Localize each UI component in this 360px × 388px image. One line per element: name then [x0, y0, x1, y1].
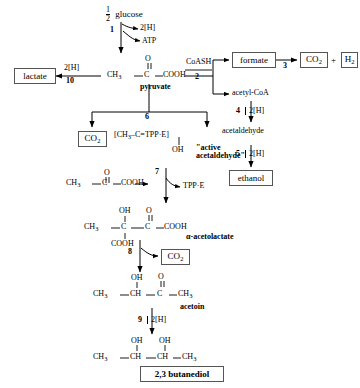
butanediol-ch3-left: CH3: [93, 353, 107, 363]
co2-right-label: CO2: [306, 55, 322, 66]
pyruvate-carbon: C: [144, 71, 149, 79]
two-h-step5: 2[H]: [245, 150, 264, 158]
step-6-number: 6: [145, 113, 149, 121]
two-h-step10: 2[H]: [64, 64, 79, 72]
butanediol-label: 2,3 butanediol: [155, 370, 210, 379]
step-10-number: 10: [66, 77, 74, 85]
coash-label: CoASH: [186, 58, 211, 66]
acetoin-ch3-right: CH3: [178, 290, 192, 300]
pyruvate-cooh: COOH: [163, 71, 186, 79]
pyruvate-name: pyruvate: [140, 83, 171, 91]
butanediol-ch-right: CH: [157, 353, 168, 361]
two-h-step1: 2[H]: [140, 24, 155, 32]
step-7-number: 7: [155, 168, 159, 176]
two-h-step9: 2[H]: [147, 316, 166, 324]
co2-acetoin-label: CO2: [168, 252, 184, 263]
acetolactate-oh: OH: [119, 207, 131, 215]
acetolactate-oxygen: O: [146, 207, 152, 215]
tpp-e-label: TPP·E: [183, 182, 204, 190]
ethanol-box: ethanol: [229, 170, 273, 186]
active-acetaldehyde-label: "active acetaldehyde": [196, 144, 245, 161]
active-complex-oh: OH: [172, 146, 184, 154]
co2-acetoin-box: CO2: [161, 249, 190, 265]
acetoin-ch3-left: CH3: [93, 290, 107, 300]
pyruvate2-oxygen: O: [104, 169, 110, 177]
acetolactate-c1: C: [121, 223, 126, 231]
butanediol-oh-left: OH: [131, 337, 143, 345]
step-1-number: 1: [110, 26, 114, 34]
lactate-label: lactate: [23, 72, 46, 81]
pyruvate-ch3: CH3: [107, 71, 121, 81]
step-8-number: 8: [128, 248, 132, 256]
acetyl-coa-label: acetyl-CoA: [232, 89, 269, 97]
co2-right-box: CO2: [300, 52, 328, 68]
active-acetaldehyde-complex: [CH3–C=TPP·E]: [114, 131, 169, 141]
acetoin-carbon: C: [157, 290, 162, 298]
co2-left-box: CO2: [78, 131, 107, 147]
glucose-text: glucose: [115, 9, 143, 19]
acetolactate-c2: C: [145, 223, 150, 231]
pyruvate2-ch3: CH3: [66, 179, 80, 189]
ethanol-label: ethanol: [238, 174, 265, 183]
plus-sign: +: [331, 56, 336, 65]
acetolactate-cooh-right: COOH: [164, 223, 187, 231]
co2-left-label: CO2: [85, 134, 101, 145]
pyruvate-oxygen: O: [145, 55, 151, 63]
butanediol-ch-left: CH: [130, 353, 141, 361]
glucose-label: 1 2 glucose: [106, 6, 143, 23]
two-h-step4: 2[H]: [245, 107, 264, 115]
formate-label: formate: [240, 56, 268, 65]
h2-box: H2: [341, 52, 358, 68]
step-9-number: 9: [138, 316, 142, 324]
lactate-box: lactate: [14, 68, 56, 84]
acetolactate-ch3: CH3: [84, 223, 98, 233]
h2-label: H2: [345, 55, 355, 66]
acetolactate-name: α-acetolactate: [186, 233, 234, 241]
acetaldehyde-label: acetaldehyde: [222, 127, 264, 135]
step-2-number: 2: [195, 73, 199, 81]
pyruvate2-carbon: C: [102, 179, 107, 187]
step-4-number: 4: [236, 107, 240, 115]
atp-label: ATP: [142, 37, 156, 45]
acetoin-ch: CH: [130, 290, 141, 298]
glucose-coefficient: 1 2: [106, 6, 110, 23]
pyruvate2-cooh: COOH: [121, 179, 144, 187]
butanediol-box: 2,3 butanediol: [140, 366, 224, 382]
acetoin-oxygen: O: [158, 273, 164, 281]
acetoin-name: acetoin: [180, 303, 204, 311]
formate-box: formate: [232, 52, 276, 68]
butanediol-ch3-right: CH3: [182, 353, 196, 363]
butanediol-oh-right: OH: [159, 337, 171, 345]
pathway-diagram: 1 2 glucose 1 2[H] ATP lactate 2[H] 10 O…: [0, 0, 360, 388]
acetoin-oh: OH: [131, 274, 143, 282]
step-3-number: 3: [283, 62, 287, 70]
